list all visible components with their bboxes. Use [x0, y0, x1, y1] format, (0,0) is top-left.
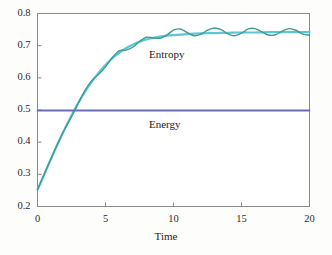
x-tick-label: 0: [18, 213, 58, 224]
y-tick-label: 0.2: [0, 200, 31, 211]
series-annotation-entropy: Entropy: [149, 48, 184, 60]
x-tick-label: 20: [290, 213, 330, 224]
y-tick-label: 0.3: [0, 167, 31, 178]
series-annotation-energy: Energy: [149, 118, 181, 130]
y-tick-label: 0.6: [0, 71, 31, 82]
y-tick-label: 0.7: [0, 39, 31, 50]
chart-figure: 0.20.30.40.50.60.70.8 05101520 EntropyEn…: [0, 0, 332, 255]
x-tick-label: 5: [86, 213, 126, 224]
x-tick-label: 15: [222, 213, 262, 224]
x-axis-title: Time: [0, 230, 332, 242]
x-tick-label: 10: [154, 213, 194, 224]
y-tick-label: 0.4: [0, 135, 31, 146]
y-tick-label: 0.8: [0, 7, 31, 18]
y-tick-label: 0.5: [0, 103, 31, 114]
